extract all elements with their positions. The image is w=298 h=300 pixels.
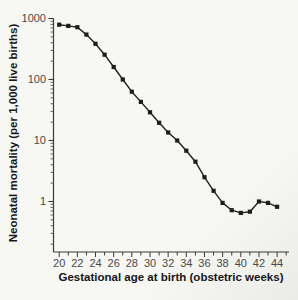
data-point-week-35: [193, 160, 197, 164]
x-tick-label: 34: [180, 257, 192, 269]
data-point-week-37: [212, 189, 216, 193]
x-tick-label: 36: [198, 257, 210, 269]
y-tick-label: 10: [34, 134, 46, 146]
data-point-week-25: [103, 53, 107, 57]
x-axis-title: Gestational age at birth (obstetric week…: [59, 271, 284, 283]
x-tick-label: 38: [217, 257, 229, 269]
data-point-week-40: [239, 211, 243, 215]
data-point-week-33: [175, 138, 179, 142]
data-point-week-27: [121, 77, 125, 81]
data-point-week-21: [66, 24, 70, 28]
data-point-week-38: [221, 201, 225, 205]
x-tick-label: 20: [53, 257, 65, 269]
data-point-week-34: [184, 149, 188, 153]
data-point-week-23: [84, 33, 88, 37]
data-point-week-22: [75, 25, 79, 29]
x-tick-label: 30: [144, 257, 156, 269]
x-tick-label: 32: [162, 257, 174, 269]
x-tick-label: 24: [89, 257, 101, 269]
x-tick-label: 22: [71, 257, 83, 269]
data-point-week-26: [112, 65, 116, 69]
data-point-week-42: [257, 199, 261, 203]
mortality-line: [59, 25, 277, 213]
x-tick-label: 44: [271, 257, 283, 269]
data-point-week-44: [275, 205, 279, 209]
data-point-week-41: [248, 210, 252, 214]
data-point-week-30: [148, 110, 152, 114]
data-point-week-32: [166, 130, 170, 134]
x-tick-label: 26: [108, 257, 120, 269]
data-point-week-28: [130, 90, 134, 94]
data-point-week-29: [139, 100, 143, 104]
data-point-week-20: [57, 23, 61, 27]
data-point-week-36: [202, 175, 206, 179]
data-point-week-24: [93, 42, 97, 46]
data-point-week-43: [266, 201, 270, 205]
y-tick-label: 1: [40, 195, 46, 207]
data-point-week-31: [157, 121, 161, 125]
x-tick-label: 42: [253, 257, 265, 269]
y-tick-label: 100: [28, 73, 46, 85]
x-tick-label: 40: [235, 257, 247, 269]
neonatal-mortality-chart: Neonatal mortality (per 1,000 live birth…: [0, 0, 298, 300]
y-tick-label: 1000: [22, 12, 46, 24]
chart-canvas: 100010010120222426283032343638404244: [0, 0, 298, 300]
data-point-week-39: [230, 208, 234, 212]
x-tick-label: 28: [126, 257, 138, 269]
